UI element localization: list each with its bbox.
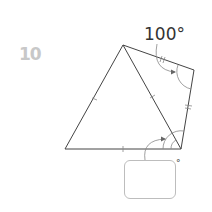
degree-unit: ° (176, 158, 181, 168)
edge-right (181, 70, 194, 149)
arrowhead-given (171, 70, 176, 75)
arrowhead-answer (161, 137, 166, 142)
angle-arc-bottom-right-inner (171, 140, 176, 149)
tick-right-1 (185, 105, 192, 106)
answer-input-box[interactable] (124, 160, 176, 199)
edge-left (65, 45, 123, 149)
edge-top-right (123, 45, 194, 70)
tick-right-2 (185, 108, 191, 109)
geometry-figure (0, 0, 212, 212)
angle-arc-bottom-right-outer (163, 131, 184, 149)
